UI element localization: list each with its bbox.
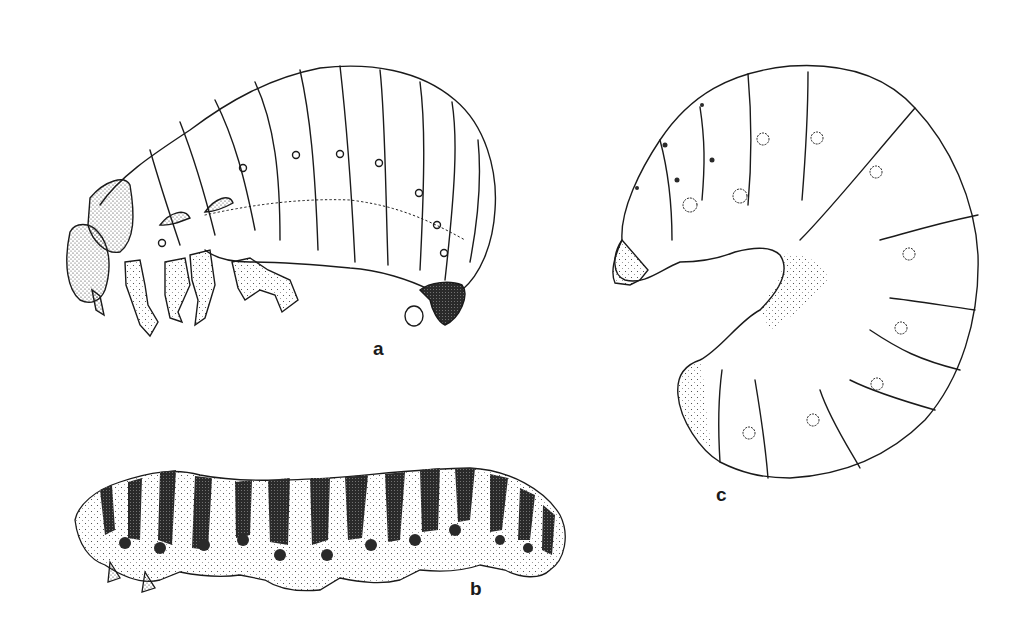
figure-c-caption: c <box>716 485 727 504</box>
illustration-plate: a b c <box>0 0 1026 634</box>
figure-b-larva <box>75 468 565 592</box>
figure-b-caption: b <box>470 579 482 598</box>
figure-a-caption: a <box>373 339 384 358</box>
figure-c-larva <box>613 65 978 478</box>
plate-drawing <box>0 0 1026 634</box>
figure-a-larva <box>67 66 496 336</box>
